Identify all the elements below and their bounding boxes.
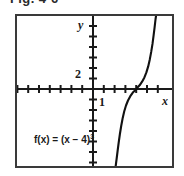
function-equation-label: f(x) = (x − 4)3	[34, 135, 94, 145]
y-tick-label-2: 2	[75, 68, 81, 80]
equation-body: f(x) = (x − 4)	[34, 134, 90, 145]
equation-exponent: 3	[90, 133, 94, 140]
y-axis-label: y	[78, 19, 83, 31]
plot-frame: y x 2 1 f(x) = (x − 4)3	[15, 14, 174, 168]
figure-caption: Fig. 4-6	[10, 0, 59, 6]
cubic-curve	[116, 16, 156, 166]
x-axis-label: x	[162, 95, 168, 107]
figure-caption-strip: Fig. 4-6	[0, 0, 184, 11]
x-tick-label-1: 1	[99, 96, 105, 108]
